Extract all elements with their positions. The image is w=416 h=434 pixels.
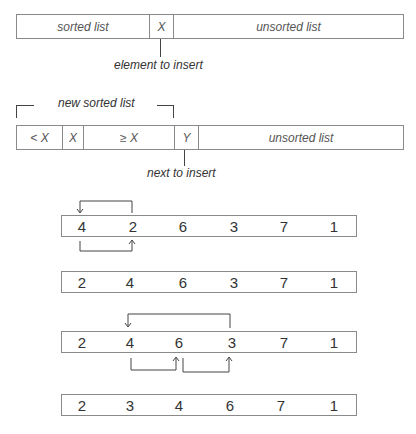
move-arrow-icon	[80, 201, 132, 213]
swap-arrows	[0, 0, 416, 434]
shift-arrow-icon	[80, 241, 132, 251]
shift-arrow-icon	[131, 358, 176, 370]
move-arrow-icon	[128, 314, 230, 328]
shift-arrow-icon	[183, 358, 229, 372]
